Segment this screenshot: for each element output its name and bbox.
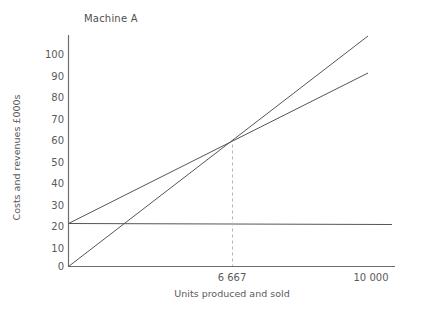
total-cost-line [69,73,369,224]
break-even-chart: Machine A Costs and revenues £000s Units… [0,0,422,318]
data-lines-group [69,36,393,267]
sales-revenue-line [69,36,369,267]
axes-group [68,35,395,267]
fixed-cost-line [69,224,393,225]
chart-plot-area [0,0,422,318]
